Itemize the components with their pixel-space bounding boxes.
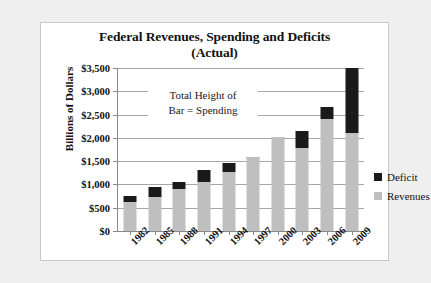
- bar-segment-revenues[interactable]: [345, 133, 358, 231]
- bar-segment-revenues[interactable]: [271, 137, 284, 231]
- bar-segment-revenues[interactable]: [124, 202, 137, 231]
- bar-stack[interactable]: [296, 131, 309, 231]
- bar-segment-deficit[interactable]: [321, 107, 334, 119]
- y-axis-label: $0: [100, 226, 111, 237]
- bar-segment-deficit[interactable]: [296, 131, 309, 148]
- y-axis-label: $2,500: [81, 109, 110, 120]
- bar-stack[interactable]: [124, 196, 137, 231]
- bar-segment-revenues[interactable]: [247, 157, 260, 231]
- x-axis-tick: [155, 231, 156, 235]
- x-axis-tick: [229, 231, 230, 235]
- bar-group[interactable]: 1982: [118, 68, 143, 231]
- x-axis-tick: [302, 231, 303, 235]
- bar-group[interactable]: 2009: [339, 68, 364, 231]
- chart-title-line-2: (Actual): [41, 45, 388, 61]
- legend-item[interactable]: Revenues: [374, 190, 430, 202]
- annotation-line-1: Total Height of: [148, 88, 258, 103]
- bar-segment-revenues[interactable]: [296, 148, 309, 231]
- y-axis-label: $1,500: [81, 156, 110, 167]
- bar-stack[interactable]: [222, 163, 235, 231]
- bar-segment-revenues[interactable]: [173, 189, 186, 231]
- y-axis-title: Billions of Dollars: [63, 34, 75, 184]
- chart-container: Federal Revenues, Spending and Deficits …: [40, 22, 389, 261]
- x-axis-tick: [253, 231, 254, 235]
- x-axis-tick: [179, 231, 180, 235]
- bar-stack[interactable]: [321, 107, 334, 231]
- bar-segment-revenues[interactable]: [198, 182, 211, 231]
- annotation-line-2: Bar = Spending: [148, 103, 258, 118]
- chart-annotation: Total Height of Bar = Spending: [148, 88, 258, 118]
- x-axis-tick: [352, 231, 353, 235]
- bar-stack[interactable]: [198, 170, 211, 231]
- bar-stack[interactable]: [148, 187, 161, 231]
- bar-segment-deficit[interactable]: [148, 187, 161, 197]
- legend-swatch-icon: [374, 192, 382, 200]
- plot-area: $3,500$3,000$2,500$2,000$1,500$1,000$500…: [117, 68, 364, 232]
- legend-item[interactable]: Deficit: [374, 171, 430, 183]
- y-axis-label: $3,500: [81, 63, 110, 74]
- chart-title: Federal Revenues, Spending and Deficits …: [41, 29, 388, 61]
- legend-label: Deficit: [387, 171, 418, 183]
- bar-group[interactable]: 2000: [266, 68, 291, 231]
- bar-segment-revenues[interactable]: [148, 197, 161, 231]
- bar-stack[interactable]: [247, 157, 260, 232]
- x-axis-tick: [278, 231, 279, 235]
- chart-legend: DeficitRevenues: [374, 171, 430, 209]
- x-axis-tick: [130, 231, 131, 235]
- bar-segment-deficit[interactable]: [345, 68, 358, 133]
- chart-title-line-1: Federal Revenues, Spending and Deficits: [41, 29, 388, 45]
- bar-stack[interactable]: [345, 68, 358, 231]
- bar-stack[interactable]: [173, 182, 186, 231]
- y-axis-label: $500: [89, 202, 110, 213]
- x-axis-tick: [204, 231, 205, 235]
- x-axis-tick: [327, 231, 328, 235]
- bar-segment-deficit[interactable]: [222, 163, 235, 172]
- legend-label: Revenues: [387, 190, 430, 202]
- y-axis-label: $2,000: [81, 132, 110, 143]
- bar-segment-revenues[interactable]: [222, 172, 235, 231]
- legend-swatch-icon: [374, 173, 382, 181]
- bar-stack[interactable]: [271, 137, 284, 231]
- bar-group[interactable]: 2003: [290, 68, 315, 231]
- bar-segment-revenues[interactable]: [321, 119, 334, 231]
- y-axis-tick: [113, 231, 118, 232]
- y-axis-label: $3,000: [81, 86, 110, 97]
- bar-segment-deficit[interactable]: [198, 170, 211, 183]
- bar-segment-deficit[interactable]: [173, 182, 186, 189]
- y-axis-label: $1,000: [81, 179, 110, 190]
- bar-group[interactable]: 2006: [315, 68, 340, 231]
